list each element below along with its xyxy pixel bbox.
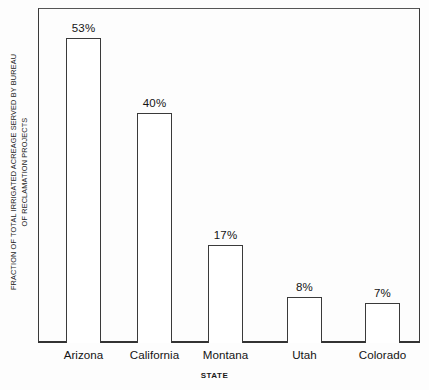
bar-chart-figure: FRACTION OF TOTAL IRRIGATED ACREAGE SERV… xyxy=(0,0,429,390)
category-label-california: California xyxy=(109,348,200,361)
category-label-colorado: Colorado xyxy=(337,348,428,361)
y-axis-label-text: FRACTION OF TOTAL IRRIGATED ACREAGE SERV… xyxy=(9,53,30,289)
y-axis-label-line-2: OF RECLAMATION PROJECTS xyxy=(19,53,30,289)
category-label-utah: Utah xyxy=(259,348,350,361)
x-axis-baseline xyxy=(38,341,420,343)
plot-area-frame xyxy=(38,8,420,343)
category-label-montana: Montana xyxy=(180,348,271,361)
category-label-arizona: Arizona xyxy=(38,348,129,361)
x-axis-title: STATE xyxy=(0,371,429,380)
y-axis-label: FRACTION OF TOTAL IRRIGATED ACREAGE SERV… xyxy=(0,0,38,343)
y-axis-label-line-1: FRACTION OF TOTAL IRRIGATED ACREAGE SERV… xyxy=(9,53,18,289)
